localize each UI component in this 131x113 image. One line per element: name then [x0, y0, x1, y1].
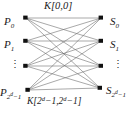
label-p-last: P2d−1: [0, 83, 21, 99]
label-p1-base: P: [4, 38, 11, 50]
edge-plast-s0: [28, 18, 101, 90]
label-s1-base: S: [110, 38, 116, 50]
label-s0-base: S: [110, 15, 116, 27]
label-p0-base: P: [4, 15, 11, 27]
label-p-last-sub-post: −1: [13, 93, 21, 101]
label-s-last: S2d−1: [106, 81, 126, 97]
label-k-bottom-prefix: K[2: [27, 96, 42, 106]
label-s0-sub: 0: [116, 22, 120, 30]
node-p0: [23, 16, 27, 20]
label-k-bottom-exponent-2: d: [63, 95, 66, 102]
label-s-last-sub-exponent: d: [115, 89, 118, 95]
label-k-top: K[0,0]: [44, 1, 72, 12]
label-s-last-sub-post: −1: [118, 91, 126, 99]
node-s0: [99, 16, 103, 20]
label-k-bottom-mid: −1,2: [45, 96, 63, 106]
label-k-bottom-suffix: −1]: [67, 96, 82, 106]
label-s1: S1: [110, 35, 119, 51]
label-p-last-sub: 2d−1: [7, 93, 21, 101]
ellipsis-right: ⋮: [113, 59, 123, 69]
label-p1-sub: 1: [11, 45, 15, 53]
label-p-last-base: P: [0, 86, 7, 98]
edge-plast-slast: [28, 88, 100, 90]
node-s-last: [98, 86, 102, 90]
label-p0: P0: [4, 12, 14, 28]
label-s0: S0: [110, 12, 119, 28]
node-p-last: [25, 88, 29, 92]
node-s1: [99, 39, 103, 43]
label-p0-sub: 0: [11, 22, 15, 30]
label-k-bottom: K[2d−1,2d−1]: [27, 97, 81, 107]
node-p-mid: [23, 64, 27, 68]
edge-group: [26, 18, 101, 90]
label-p1: P1: [4, 35, 14, 51]
label-k-bottom-exponent-1: d: [42, 95, 45, 102]
ellipsis-left: ⋮: [10, 59, 20, 69]
label-s1-sub: 1: [116, 45, 120, 53]
label-p-last-sub-exponent: d: [10, 91, 13, 97]
edge-pmid-slast: [26, 66, 100, 88]
label-s-last-sub: 2d−1: [112, 91, 126, 99]
edge-p0-slast: [26, 18, 100, 88]
node-s-mid: [99, 64, 103, 68]
edge-plast-s1: [28, 41, 101, 90]
bipartite-graph-figure: P0 P1 P2d−1 S0 S1 S2d−1 K[0,0] K[2d−1,2d…: [0, 0, 131, 113]
node-p1: [23, 39, 27, 43]
